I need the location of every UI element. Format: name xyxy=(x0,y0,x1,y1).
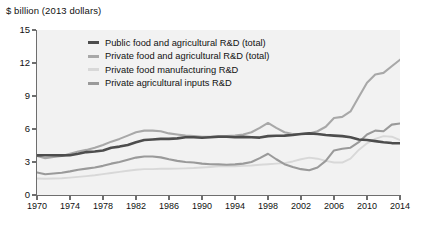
x-tick-label: 1986 xyxy=(153,201,185,211)
x-tick xyxy=(36,196,37,200)
y-tick-label: 12 xyxy=(6,57,30,68)
x-tick xyxy=(201,196,202,200)
x-tick-label: 1994 xyxy=(219,201,251,211)
chart-legend: Public food and agricultural R&D (total)… xyxy=(88,36,269,90)
legend-label: Private food and agricultural R&D (total… xyxy=(105,51,269,61)
y-tick-label: 6 xyxy=(6,123,30,134)
x-tick-label: 2014 xyxy=(384,201,416,211)
chart-container: $ billion (2013 dollars) 03691215 197019… xyxy=(0,0,421,238)
y-tick xyxy=(32,128,36,129)
x-axis xyxy=(36,195,401,196)
legend-label: Private food manufacturing R&D xyxy=(105,65,238,75)
legend-item: Private agricultural inputs R&D xyxy=(88,77,269,91)
x-tick xyxy=(234,196,235,200)
legend-item: Private food manufacturing R&D xyxy=(88,63,269,77)
y-tick-label: 15 xyxy=(6,24,30,35)
y-tick-label: 0 xyxy=(6,189,30,200)
legend-item: Public food and agricultural R&D (total) xyxy=(88,36,269,50)
legend-swatch xyxy=(88,41,99,44)
y-tick xyxy=(32,194,36,195)
legend-swatch xyxy=(88,55,99,58)
x-tick-label: 2002 xyxy=(285,201,317,211)
y-tick xyxy=(32,29,36,30)
y-tick xyxy=(32,95,36,96)
x-tick xyxy=(135,196,136,200)
legend-swatch xyxy=(88,82,99,85)
x-tick xyxy=(267,196,268,200)
y-tick xyxy=(32,62,36,63)
x-tick-label: 1982 xyxy=(120,201,152,211)
x-tick-label: 1978 xyxy=(87,201,119,211)
y-axis-title: $ billion (2013 dollars) xyxy=(6,5,101,16)
x-tick xyxy=(300,196,301,200)
x-tick xyxy=(102,196,103,200)
legend-label: Private agricultural inputs R&D xyxy=(105,78,232,88)
y-tick-label: 9 xyxy=(6,90,30,101)
x-tick-label: 2006 xyxy=(318,201,350,211)
x-tick xyxy=(399,196,400,200)
series-line xyxy=(37,133,400,155)
x-tick xyxy=(366,196,367,200)
x-tick xyxy=(168,196,169,200)
y-tick-label: 3 xyxy=(6,156,30,167)
x-tick xyxy=(333,196,334,200)
series-line xyxy=(37,136,400,179)
x-tick-label: 1974 xyxy=(54,201,86,211)
x-tick-label: 2010 xyxy=(351,201,383,211)
x-tick xyxy=(69,196,70,200)
x-tick-label: 1998 xyxy=(252,201,284,211)
x-tick-label: 1990 xyxy=(186,201,218,211)
y-axis xyxy=(36,30,37,196)
y-tick xyxy=(32,161,36,162)
legend-item: Private food and agricultural R&D (total… xyxy=(88,50,269,64)
legend-label: Public food and agricultural R&D (total) xyxy=(105,38,266,48)
x-tick-label: 1970 xyxy=(21,201,53,211)
legend-swatch xyxy=(88,68,99,71)
